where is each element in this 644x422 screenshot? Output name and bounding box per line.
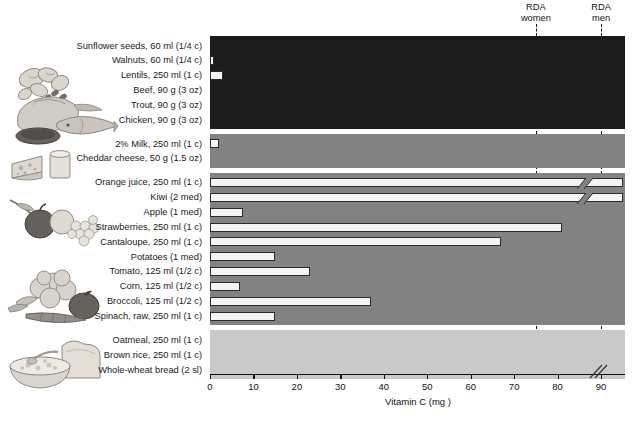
- x-tick-label: 90: [586, 381, 616, 392]
- category-label: Trout, 90 g (3 oz): [131, 100, 202, 110]
- x-tick-label: 40: [369, 381, 399, 392]
- x-tick: [210, 374, 211, 379]
- band-protein-foods: [210, 36, 625, 129]
- category-label: Apple (1 med): [144, 207, 202, 217]
- bar-broccoli-125-ml-1-2-c: [210, 297, 371, 306]
- category-label: Oatmeal, 250 ml (1 c): [113, 335, 202, 345]
- x-tick-label: 30: [325, 381, 355, 392]
- x-tick: [340, 374, 341, 379]
- x-tick-label: 80: [543, 381, 573, 392]
- band-grains: [210, 330, 625, 379]
- category-labels: Sunflower seeds, 60 ml (1/4 c)Walnuts, 6…: [0, 0, 206, 422]
- category-label: Kiwi (2 med): [150, 192, 202, 202]
- category-label: Brown rice, 250 ml (1 c): [104, 350, 202, 360]
- bar-cantaloupe-250-ml-1-c: [210, 237, 501, 246]
- category-label: 2% Milk, 250 ml (1 c): [115, 139, 202, 149]
- bar-strawberries-250-ml-1-c: [210, 223, 562, 232]
- band-dairy: [210, 134, 625, 168]
- category-label: Beef, 90 g (3 oz): [133, 85, 202, 95]
- bar-2-milk-250-ml-1-c: [210, 139, 219, 148]
- bar-corn-125-ml-1-2-c: [210, 282, 240, 291]
- x-tick-label: 20: [282, 381, 312, 392]
- category-label: Spinach, raw, 250 ml (1 c): [95, 311, 202, 321]
- category-label: Sunflower seeds, 60 ml (1/4 c): [76, 41, 202, 51]
- bar-walnuts-60-ml-1-4-c: [210, 56, 214, 65]
- category-label: Walnuts, 60 ml (1/4 c): [112, 55, 202, 65]
- rda-label-men: RDAmen: [571, 2, 631, 23]
- vitamin-c-chart: Sunflower seeds, 60 ml (1/4 c)Walnuts, 6…: [0, 0, 644, 422]
- category-label: Potatoes (1 med): [131, 252, 202, 262]
- category-label: Whole-wheat bread (2 sl): [98, 365, 202, 375]
- x-tick-label: 0: [195, 381, 225, 392]
- rda-line-stub-men: [601, 24, 602, 36]
- bar-lentils-250-ml-1-c: [210, 71, 223, 80]
- rda-label-women: RDAwomen: [506, 2, 566, 23]
- bar-kiwi-2-med: [210, 193, 623, 202]
- x-tick: [601, 374, 602, 379]
- x-tick-label: 70: [499, 381, 529, 392]
- bar-spinach-raw-250-ml-1-c: [210, 312, 275, 321]
- plot-area: [210, 36, 625, 374]
- x-tick-label: 50: [412, 381, 442, 392]
- x-axis-line: [210, 374, 625, 375]
- category-label: Lentils, 250 ml (1 c): [121, 70, 202, 80]
- category-label: Broccoli, 125 ml (1/2 c): [107, 296, 202, 306]
- category-label: Chicken, 90 g (3 oz): [119, 115, 202, 125]
- category-label: Tomato, 125 ml (1/2 c): [110, 266, 203, 276]
- x-tick: [514, 374, 515, 379]
- bar-orange-juice-250-ml-1-c: [210, 178, 623, 187]
- x-tick: [471, 374, 472, 379]
- rda-line-stub-women: [536, 24, 537, 36]
- bar-tomato-125-ml-1-2-c: [210, 267, 310, 276]
- category-label: Orange juice, 250 ml (1 c): [95, 177, 202, 187]
- category-label: Cantaloupe, 250 ml (1 c): [100, 237, 202, 247]
- x-tick-label: 10: [238, 381, 268, 392]
- x-axis-title: Vitamin C (mg ): [318, 396, 518, 407]
- x-tick: [558, 374, 559, 379]
- category-label: Corn, 125 ml (1/2 c): [120, 281, 202, 291]
- x-tick: [384, 374, 385, 379]
- x-tick-label: 60: [456, 381, 486, 392]
- bar-apple-1-med: [210, 208, 243, 217]
- category-label: Cheddar cheese, 50 g (1.5 oz): [76, 153, 202, 163]
- x-tick: [427, 374, 428, 379]
- x-tick: [297, 374, 298, 379]
- bar-potatoes-1-med: [210, 252, 275, 261]
- category-label: Strawberries, 250 ml (1 c): [96, 222, 202, 232]
- x-tick: [253, 374, 254, 379]
